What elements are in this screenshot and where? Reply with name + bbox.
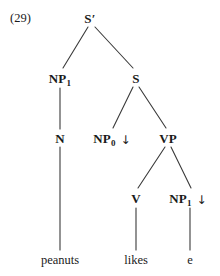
subscript: 0 — [111, 138, 116, 148]
node-v: V — [131, 192, 141, 205]
terminal-likes: likes — [124, 254, 148, 267]
tree-edge-s-to-np0 — [113, 87, 133, 128]
node-n-label: N — [55, 131, 65, 146]
tree-edge-sbar-to-np1 — [63, 27, 88, 68]
node-vp: VP — [159, 132, 177, 145]
node-s: S — [132, 72, 139, 85]
tree-edge-vp-to-np1 — [171, 147, 191, 188]
subscript: 1 — [187, 198, 192, 208]
subscript: 1 — [67, 78, 72, 88]
substitution-arrow-icon: ↓ — [197, 194, 207, 206]
tree-edge-sbar-to-s — [95, 27, 133, 68]
node-v-label: V — [131, 191, 141, 206]
prime-mark: ′ — [92, 11, 96, 26]
node-np1-object-label: NP — [169, 191, 187, 206]
syntax-tree-figure: (29) S′ NP1 S N NP0↓ VP V NP1↓ peanuts l… — [0, 0, 220, 276]
node-np1-subject-label: NP — [49, 71, 67, 86]
node-n: N — [55, 132, 65, 145]
tree-edge-s-to-vp — [139, 87, 166, 128]
node-s-bar: S′ — [84, 12, 95, 25]
tree-edge-vp-to-v — [138, 147, 165, 188]
node-np1-object: NP1↓ — [169, 192, 207, 205]
node-np0: NP0↓ — [93, 132, 131, 145]
node-np0-label: NP — [93, 131, 111, 146]
node-s-label: S — [132, 71, 139, 86]
terminal-trace: e — [187, 254, 193, 267]
substitution-arrow-icon: ↓ — [121, 134, 131, 146]
node-vp-label: VP — [159, 131, 177, 146]
terminal-peanuts: peanuts — [41, 254, 79, 267]
node-np1-subject: NP1 — [49, 72, 71, 85]
